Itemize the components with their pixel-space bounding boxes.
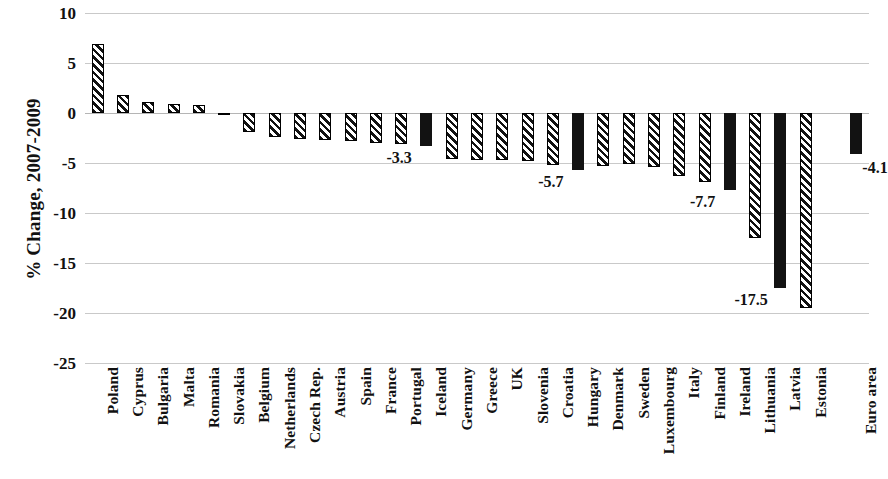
bar-slot xyxy=(338,13,363,363)
bar-belgium xyxy=(243,113,255,132)
y-axis-tick-label: -10 xyxy=(30,204,76,224)
x-axis-label-cyprus: Cyprus xyxy=(129,367,147,417)
plot-area: -3.3-5.7-7.7-17.5-4.1 xyxy=(85,13,869,363)
bar-iceland xyxy=(420,113,432,146)
bar-slot xyxy=(211,13,236,363)
x-axis-label-portugal: Portugal xyxy=(407,367,425,426)
x-axis-label-latvia: Latvia xyxy=(786,367,804,411)
bar-slot xyxy=(262,13,287,363)
bar-slot xyxy=(717,13,742,363)
y-axis-tick-label: 10 xyxy=(30,4,76,24)
bar-romania xyxy=(193,105,205,113)
bar-euro-area xyxy=(850,113,862,154)
bar-slot xyxy=(641,13,666,363)
bar-ireland xyxy=(724,113,736,190)
bar-portugal xyxy=(395,113,407,144)
bar-slot xyxy=(743,13,768,363)
x-axis-label-italy: Italy xyxy=(685,367,703,399)
x-axis-label-hungary: Hungary xyxy=(584,367,602,427)
y-axis-tick-label: -5 xyxy=(30,154,76,174)
x-axis-label-bulgaria: Bulgaria xyxy=(154,367,172,426)
bar-slot xyxy=(768,13,793,363)
bar-france xyxy=(370,113,382,143)
bar-germany xyxy=(446,113,458,159)
x-axis-label-malta: Malta xyxy=(180,367,198,407)
bar-slot xyxy=(85,13,110,363)
x-axis-label-iceland: Iceland xyxy=(432,367,450,417)
x-axis-label-netherlands: Netherlands xyxy=(281,367,299,449)
y-axis-tick-label: -25 xyxy=(30,354,76,374)
x-axis-label-uk: UK xyxy=(508,367,526,390)
bar-uk xyxy=(496,113,508,160)
bar-slot xyxy=(110,13,135,363)
bar-greece xyxy=(471,113,483,160)
bar-croatia xyxy=(547,113,559,165)
data-label-iceland: -3.3 xyxy=(386,150,411,166)
bar-finland xyxy=(699,113,711,182)
bar-austria xyxy=(319,113,331,140)
x-axis-label-poland: Poland xyxy=(104,367,122,414)
bar-slot xyxy=(237,13,262,363)
x-axis-label-spain: Spain xyxy=(357,367,375,405)
y-axis-title: % Change, 2007-2009 xyxy=(23,59,45,319)
bar-spain xyxy=(345,113,357,141)
bar-denmark xyxy=(597,113,609,166)
bar-slovenia xyxy=(522,113,534,161)
data-label-ireland: -7.7 xyxy=(690,194,715,210)
data-label-euro-area: -4.1 xyxy=(862,160,887,176)
y-axis-tick-label: -15 xyxy=(30,254,76,274)
y-axis-tick-label: 5 xyxy=(30,54,76,74)
x-axis-label-denmark: Denmark xyxy=(609,367,627,431)
bar-slot xyxy=(844,13,869,363)
bar-slot xyxy=(667,13,692,363)
bar-cyprus xyxy=(117,95,129,113)
bar-estonia xyxy=(800,113,812,308)
bar-slot xyxy=(363,13,388,363)
x-axis-label-lithuania: Lithuania xyxy=(761,367,779,433)
bar-hungary xyxy=(572,113,584,170)
bar-slot xyxy=(793,13,818,363)
bar-slot xyxy=(692,13,717,363)
x-axis-label-greece: Greece xyxy=(483,367,501,414)
x-axis-label-austria: Austria xyxy=(331,367,349,418)
bar-malta xyxy=(168,104,180,113)
bar-latvia xyxy=(774,113,786,288)
y-axis-tick-label: 0 xyxy=(30,104,76,124)
x-axis-label-czech-rep-: Czech Rep. xyxy=(306,367,324,443)
bar-slot xyxy=(186,13,211,363)
bar-lithuania xyxy=(749,113,761,238)
x-axis-label-germany: Germany xyxy=(458,367,476,431)
x-axis-label-finland: Finland xyxy=(711,367,729,419)
bar-slot xyxy=(490,13,515,363)
x-axis-label-slovakia: Slovakia xyxy=(230,367,248,425)
bar-slot xyxy=(313,13,338,363)
bar-sweden xyxy=(623,113,635,164)
bar-italy xyxy=(673,113,685,176)
bar-slot xyxy=(136,13,161,363)
x-axis-label-belgium: Belgium xyxy=(255,367,273,423)
bar-czech-rep- xyxy=(294,113,306,139)
bar-slot xyxy=(439,13,464,363)
data-label-hungary: -5.7 xyxy=(538,174,563,190)
x-axis-label-sweden: Sweden xyxy=(635,367,653,418)
bar-slovakia xyxy=(218,113,230,115)
bar-luxembourg xyxy=(648,113,660,167)
bar-slot xyxy=(616,13,641,363)
bar-series xyxy=(85,13,869,363)
bar-slot xyxy=(388,13,413,363)
bar-bulgaria xyxy=(142,102,154,113)
bar-poland xyxy=(92,44,104,113)
x-axis-label-estonia: Estonia xyxy=(812,367,830,418)
data-label-latvia: -17.5 xyxy=(734,292,767,308)
bar-slot xyxy=(515,13,540,363)
x-axis-label-croatia: Croatia xyxy=(559,367,577,418)
bar-slot xyxy=(591,13,616,363)
bar-slot xyxy=(414,13,439,363)
x-axis-label-ireland: Ireland xyxy=(736,367,754,417)
x-axis-label-luxembourg: Luxembourg xyxy=(660,367,678,454)
y-axis-tick-label: -20 xyxy=(30,304,76,324)
x-axis-label-slovenia: Slovenia xyxy=(534,367,552,424)
x-axis-tick-labels: PolandCyprusBulgariaMaltaRomaniaSlovakia… xyxy=(85,363,869,479)
x-axis-label-france: France xyxy=(382,367,400,414)
